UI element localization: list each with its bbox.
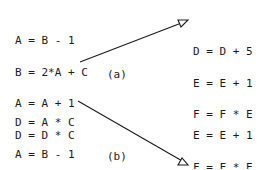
statement: A = B - 1 xyxy=(15,36,88,47)
block-b-right: E = E + 1 F = F * E D = D + 5 xyxy=(193,110,253,169)
statement: B = 2*A + C xyxy=(15,68,88,79)
statement: F = F * E xyxy=(193,163,253,170)
label-b: (b) xyxy=(107,150,127,163)
label-a: (a) xyxy=(107,68,127,81)
block-b-left: D = A * C A = B - 1 B = 2*A + C A = A + … xyxy=(15,97,88,169)
statement: A = B - 1 xyxy=(15,150,88,161)
statement: D = A * C xyxy=(15,118,88,129)
arrow-b xyxy=(78,101,188,165)
statement: D = D + 5 xyxy=(193,47,253,58)
statement: E = E + 1 xyxy=(193,131,253,142)
arrow-a xyxy=(80,20,188,62)
statement: E = E + 1 xyxy=(193,79,253,90)
